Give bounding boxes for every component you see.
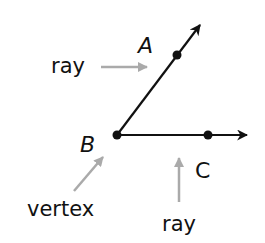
point-c-label: C [195, 158, 210, 183]
point-b-dot [113, 131, 122, 140]
annotation-vertex: vertex [27, 197, 94, 221]
point-b-label: B [80, 132, 95, 157]
point-c-dot [204, 131, 213, 140]
point-a-label: A [136, 33, 153, 58]
angle-diagram: A B C ray vertex ray [0, 0, 265, 243]
annotation-ray-top: ray [51, 54, 85, 78]
pointer-arrow-vertex [74, 157, 103, 191]
ray-ba [117, 25, 200, 135]
point-a-dot [173, 51, 182, 60]
annotation-ray-bottom: ray [162, 212, 196, 236]
